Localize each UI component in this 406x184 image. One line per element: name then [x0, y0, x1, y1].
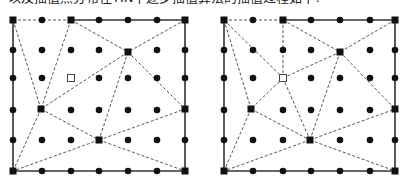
- control-point-square: [38, 106, 45, 113]
- grid-point-dot: [154, 47, 161, 54]
- tin-edge: [283, 78, 310, 140]
- grid-point-dot: [182, 47, 189, 54]
- grid-point-dot: [125, 137, 132, 144]
- tin-edge: [13, 20, 41, 109]
- grid-point-dot: [392, 137, 399, 144]
- grid-point-dot: [250, 75, 257, 82]
- grid-point-dot: [10, 107, 17, 114]
- control-point-square: [221, 17, 228, 24]
- grid-point-dot: [154, 17, 161, 24]
- control-point-square: [307, 137, 314, 144]
- control-point-square: [68, 17, 75, 24]
- tin-edge: [224, 20, 251, 109]
- grid-point-dot: [221, 75, 228, 82]
- grid-point-dot: [221, 47, 228, 54]
- grid-point-dot: [154, 107, 161, 114]
- tin-edge: [13, 140, 99, 171]
- grid-point-dot: [68, 168, 75, 175]
- tin-edge: [310, 109, 395, 140]
- insertion-point-hollow-square: [280, 75, 287, 82]
- control-point-square: [182, 106, 189, 113]
- tin-interpolation-diagram: [0, 0, 406, 184]
- tin-edge: [310, 52, 340, 140]
- grid-point-dot: [68, 47, 75, 54]
- grid-point-dot: [96, 168, 103, 175]
- grid-point-dot: [96, 75, 103, 82]
- grid-point-dot: [308, 75, 315, 82]
- tin-edge: [251, 109, 310, 140]
- control-point-square: [392, 106, 399, 113]
- tin-edge: [224, 140, 310, 171]
- grid-point-dot: [96, 47, 103, 54]
- grid-point-dot: [39, 75, 46, 82]
- grid-point-dot: [250, 17, 257, 24]
- panel-after-insertion: [221, 17, 399, 175]
- grid-point-dot: [337, 137, 344, 144]
- grid-point-dot: [367, 107, 374, 114]
- grid-point-dot: [182, 75, 189, 82]
- control-point-square: [337, 49, 344, 56]
- grid-point-dot: [154, 168, 161, 175]
- grid-point-dot: [250, 47, 257, 54]
- tin-edge: [251, 78, 283, 109]
- grid-point-dot: [367, 17, 374, 24]
- tin-edge: [99, 140, 185, 171]
- tin-edge: [224, 109, 251, 171]
- control-point-square: [248, 106, 255, 113]
- grid-point-dot: [337, 168, 344, 175]
- grid-point-dot: [68, 107, 75, 114]
- tin-edge: [310, 140, 395, 171]
- grid-point-dot: [392, 75, 399, 82]
- tin-edge: [13, 109, 41, 171]
- control-point-square: [280, 17, 287, 24]
- grid-point-dot: [96, 17, 103, 24]
- grid-point-dot: [337, 75, 344, 82]
- control-point-square: [125, 49, 132, 56]
- tin-edge: [99, 52, 128, 140]
- grid-point-dot: [221, 107, 228, 114]
- control-point-square: [10, 168, 17, 175]
- tin-edge: [41, 20, 71, 109]
- grid-point-dot: [154, 75, 161, 82]
- grid-point-dot: [221, 137, 228, 144]
- grid-point-dot: [337, 107, 344, 114]
- grid-point-dot: [308, 17, 315, 24]
- grid-point-dot: [250, 137, 257, 144]
- tin-edge: [340, 20, 395, 52]
- grid-point-dot: [10, 137, 17, 144]
- grid-point-dot: [39, 137, 46, 144]
- grid-point-dot: [308, 107, 315, 114]
- grid-point-dot: [308, 47, 315, 54]
- grid-point-dot: [308, 168, 315, 175]
- grid-point-dot: [154, 137, 161, 144]
- grid-point-dot: [68, 137, 75, 144]
- grid-point-dot: [367, 168, 374, 175]
- grid-point-dot: [367, 137, 374, 144]
- grid-point-dot: [280, 168, 287, 175]
- grid-point-dot: [280, 137, 287, 144]
- grid-point-dot: [125, 107, 132, 114]
- control-point-square: [96, 137, 103, 144]
- grid-point-dot: [280, 107, 287, 114]
- control-point-square: [392, 168, 399, 175]
- control-point-square: [182, 168, 189, 175]
- grid-point-dot: [39, 17, 46, 24]
- grid-point-dot: [337, 17, 344, 24]
- tin-edge: [340, 52, 395, 109]
- tin-edge: [41, 109, 99, 140]
- panel-before-insertion: [10, 17, 189, 175]
- control-point-square: [392, 17, 399, 24]
- grid-point-dot: [10, 75, 17, 82]
- control-point-square: [10, 17, 17, 24]
- grid-point-dot: [392, 47, 399, 54]
- grid-point-dot: [39, 168, 46, 175]
- grid-point-dot: [125, 168, 132, 175]
- grid-point-dot: [367, 75, 374, 82]
- grid-point-dot: [39, 47, 46, 54]
- grid-point-dot: [367, 47, 374, 54]
- grid-point-dot: [10, 47, 17, 54]
- grid-point-dot: [125, 17, 132, 24]
- grid-point-dot: [96, 107, 103, 114]
- grid-point-dot: [280, 47, 287, 54]
- grid-point-dot: [182, 137, 189, 144]
